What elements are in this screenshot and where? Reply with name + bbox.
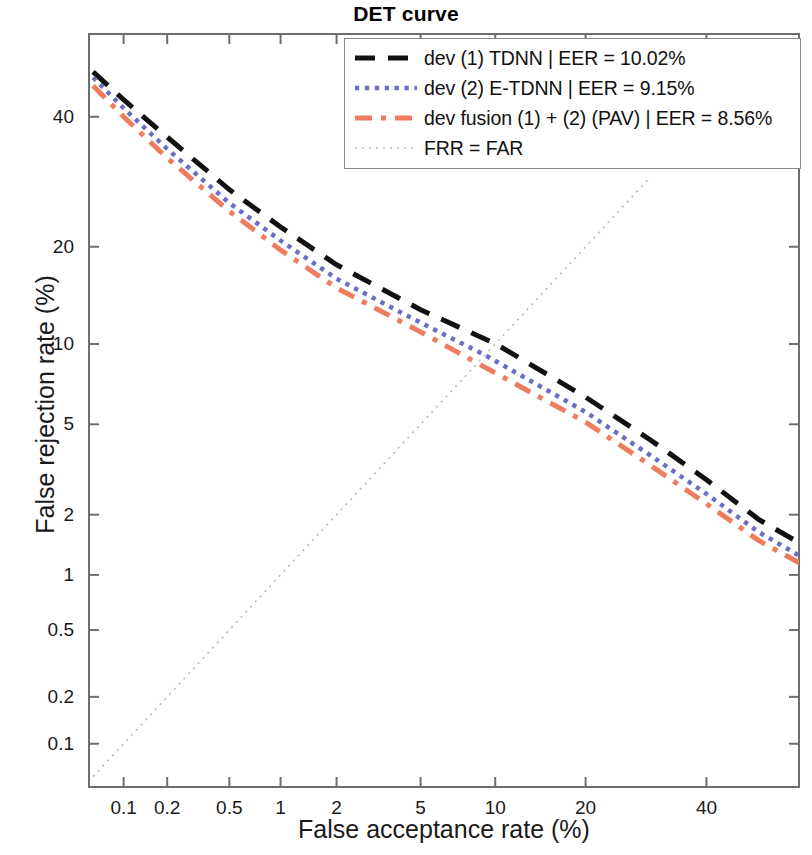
legend-entry: FRR = FAR [345, 133, 800, 163]
legend-line-swatch [354, 139, 418, 157]
legend-entry: dev (1) TDNN | EER = 10.02% [345, 43, 800, 73]
legend-line-swatch [354, 79, 418, 97]
legend-label: dev (2) E-TDNN | EER = 9.15% [424, 77, 694, 100]
legend-line-swatch [354, 109, 418, 127]
x-axis-label: False acceptance rate (%) [88, 815, 800, 844]
chart-legend: dev (1) TDNN | EER = 10.02%dev (2) E-TDN… [344, 38, 801, 169]
legend-label: FRR = FAR [424, 137, 523, 160]
chart-title: DET curve [0, 2, 812, 26]
legend-label: dev (1) TDNN | EER = 10.02% [424, 47, 686, 70]
legend-entry: dev fusion (1) + (2) (PAV) | EER = 8.56% [345, 103, 800, 133]
y-tick-label: 0.1 [10, 733, 74, 755]
legend-label: dev fusion (1) + (2) (PAV) | EER = 8.56% [424, 107, 772, 130]
y-tick-label: 40 [10, 106, 74, 128]
det-curve-figure: DET curve 0.10.20.51251020400.10.20.5125… [0, 0, 812, 855]
legend-entry: dev (2) E-TDNN | EER = 9.15% [345, 73, 800, 103]
legend-line-swatch [354, 49, 418, 67]
y-axis-label: False rejection rate (%) [31, 175, 60, 635]
y-tick-label: 0.2 [10, 686, 74, 708]
